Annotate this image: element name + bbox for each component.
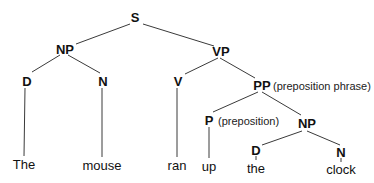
edge-np2-n2	[307, 131, 340, 145]
node-s: S	[131, 11, 140, 24]
node-d: D	[22, 75, 31, 88]
edge-vp-pp	[220, 58, 255, 78]
node-v: V	[174, 75, 183, 88]
edge-np2-d2	[262, 131, 302, 145]
word-ran: ran	[168, 159, 187, 172]
word-mouse: mouse	[82, 159, 121, 172]
word-clock: clock	[326, 163, 356, 176]
edge-pp-np	[262, 92, 301, 115]
edge-np-n	[68, 55, 100, 73]
node-np: NP	[56, 43, 74, 56]
word-the: The	[13, 158, 35, 171]
edge-pp-p	[213, 92, 258, 112]
edge-vp-v	[185, 58, 218, 74]
edge-np-d	[32, 55, 60, 72]
tree-edges	[0, 0, 374, 183]
node-d2: D	[251, 144, 260, 157]
word-up: up	[202, 160, 216, 173]
note-p: (preposition)	[218, 116, 279, 127]
node-np2: NP	[298, 117, 316, 130]
edge-d1-the	[24, 88, 25, 156]
node-pp: PP	[253, 79, 270, 92]
edge-s-vp	[143, 24, 214, 46]
note-pp: (preposition phrase)	[273, 81, 371, 92]
edge-s-np	[76, 24, 130, 44]
word-the-2: the	[247, 162, 265, 175]
node-n2: N	[336, 146, 345, 159]
node-p: P	[205, 114, 214, 127]
node-n: N	[98, 75, 107, 88]
node-vp: VP	[212, 45, 229, 58]
